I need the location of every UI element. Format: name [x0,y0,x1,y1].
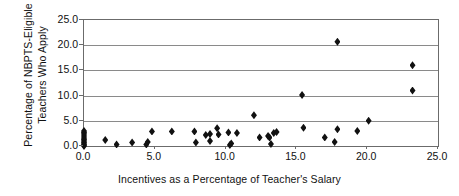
y-tick-mark [79,19,83,20]
data-point [225,128,231,136]
gridline [84,45,438,46]
x-tick-label: 0.0 [61,150,105,162]
plot-area [83,19,439,147]
data-point [129,138,135,146]
data-point [207,130,213,138]
data-point [214,124,220,132]
y-tick-mark [79,95,83,96]
data-point [300,124,306,132]
data-point [334,125,340,133]
y-tick-mark [79,145,83,146]
data-point [169,127,175,135]
x-axis-title: Incentives as a Percentage of Teacher's … [0,173,459,185]
data-point [322,133,328,141]
data-point [410,61,416,69]
gridline [84,121,438,122]
gridline [84,96,438,97]
data-point [366,117,372,125]
data-point [257,133,263,141]
data-point [191,127,197,135]
data-point [149,127,155,135]
y-tick-mark [79,120,83,121]
x-tick-label: 20.0 [344,150,388,162]
data-point [234,129,240,137]
y-tick-mark [79,44,83,45]
data-point [268,140,274,148]
data-point [102,136,108,144]
gridline [84,70,438,71]
data-point [354,127,360,135]
x-tick-label: 5.0 [132,150,176,162]
data-point [332,138,338,146]
y-tick-mark [79,69,83,70]
scatter-chart-figure: Percentage of NBPTS-Eligible Teachers Wh… [0,0,459,196]
data-point [207,137,213,145]
data-point [410,87,416,95]
x-tick-label: 25.0 [415,150,459,162]
x-tick-label: 10.0 [203,150,247,162]
data-point [251,111,257,119]
data-point [299,91,305,99]
data-point [193,138,199,146]
data-point [216,130,222,138]
x-tick-label: 15.0 [273,150,317,162]
